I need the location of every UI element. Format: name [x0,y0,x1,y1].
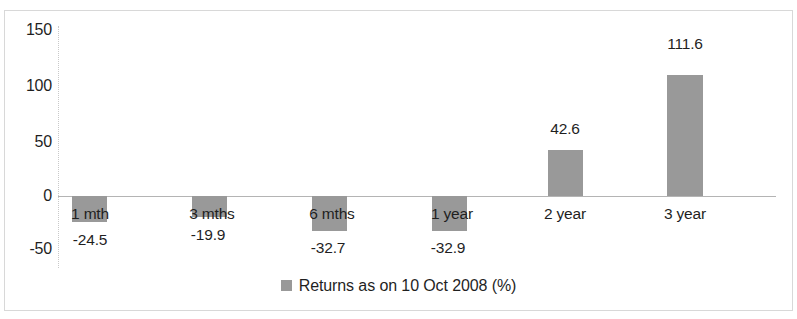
category-label-3-year: 3 year [625,206,745,222]
chart-legend: Returns as on 10 Oct 2008 (%) [0,277,797,294]
bar-3-year[interactable] [667,75,703,196]
legend-swatch-icon [281,280,292,291]
bar-chart: 150 100 50 0 -50 1 mth -24.5 3 mths -19.… [0,0,797,319]
bar-2-year[interactable] [548,150,583,196]
category-label-2-year: 2 year [505,206,625,222]
category-label-3-mths: 3 mths [152,206,272,222]
value-label-3-year: 111.6 [625,36,745,52]
value-label-6-mths: -32.7 [268,240,388,256]
category-label-1-year: 1 year [392,206,512,222]
value-label-3-mths: -19.9 [148,227,268,243]
value-label-1-year: -32.9 [388,240,508,256]
plot-bars: 1 mth -24.5 3 mths -19.9 6 mths -32.7 1 … [0,0,797,319]
value-label-1-mth: -24.5 [30,232,150,248]
category-label-1-mth: 1 mth [30,206,150,222]
category-label-6-mths: 6 mths [272,206,392,222]
legend-label-returns: Returns as on 10 Oct 2008 (%) [299,277,517,294]
value-label-2-year: 42.6 [505,121,625,137]
